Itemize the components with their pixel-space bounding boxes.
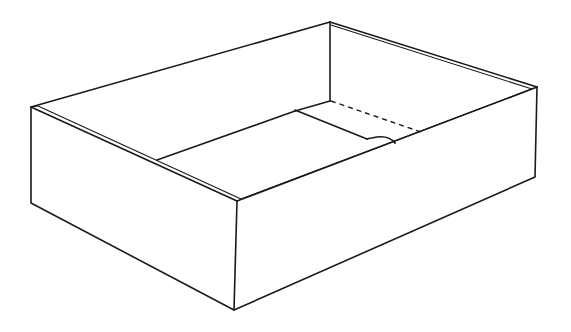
front-right-rim [237, 87, 537, 201]
front-left-wall [31, 107, 237, 310]
dashed-fold-line [331, 101, 421, 132]
back-left-wall [31, 22, 330, 107]
box-drawing [0, 0, 571, 332]
floor [157, 101, 330, 160]
back-right-wall [330, 22, 537, 101]
front-left-rim [31, 106, 241, 201]
floor-flap [295, 110, 395, 143]
box-diagram: Open rectangular box (tray) line drawing [0, 0, 571, 332]
